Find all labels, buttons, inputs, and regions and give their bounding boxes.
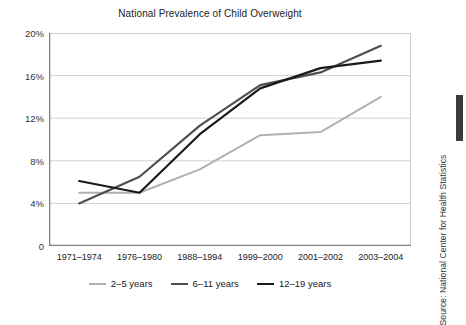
legend-label: 2–5 years bbox=[111, 278, 153, 289]
legend-line-swatch bbox=[257, 283, 274, 285]
y-axis-tick-label: 16% bbox=[10, 70, 44, 81]
legend-item[interactable]: 2–5 years bbox=[89, 278, 153, 289]
y-axis-tick-labels: 04%8%12%16%20% bbox=[8, 33, 44, 246]
legend-item[interactable]: 12–19 years bbox=[257, 278, 331, 289]
x-axis-tick-label: 2003–2004 bbox=[358, 252, 403, 262]
series-line bbox=[79, 61, 381, 193]
source-note: Source: National Center for Health Stati… bbox=[436, 35, 450, 245]
chart-plot-svg bbox=[49, 33, 411, 246]
x-axis-tick-label: 2001–2002 bbox=[298, 252, 343, 262]
x-axis-tick-label: 1999–2000 bbox=[238, 252, 283, 262]
x-axis-tick-label: 1971–1974 bbox=[57, 252, 102, 262]
chart-legend: 2–5 years6–11 years12–19 years bbox=[0, 278, 420, 289]
plot-area bbox=[49, 33, 411, 246]
legend-label: 12–19 years bbox=[279, 278, 331, 289]
y-axis-tick-label: 12% bbox=[10, 113, 44, 124]
y-axis-tick-label: 8% bbox=[10, 155, 44, 166]
legend-line-swatch bbox=[89, 283, 106, 285]
legend-item[interactable]: 6–11 years bbox=[171, 278, 239, 289]
page-edge-marker bbox=[456, 95, 463, 141]
chart-title: National Prevalence of Child Overweight bbox=[0, 8, 420, 19]
y-axis-tick-label: 4% bbox=[10, 198, 44, 209]
x-axis-tick-label: 1976–1980 bbox=[117, 252, 162, 262]
x-axis-tick-labels: 1971–19741976–19801988–19941999–20002001… bbox=[30, 252, 430, 268]
x-axis-tick-label: 1988–1994 bbox=[177, 252, 222, 262]
source-label: Source: National Center for Health Stati… bbox=[438, 155, 448, 325]
legend-label: 6–11 years bbox=[193, 278, 239, 289]
y-axis-tick-label: 0 bbox=[10, 241, 44, 252]
legend-line-swatch bbox=[171, 283, 188, 285]
series-line bbox=[79, 46, 381, 204]
y-axis-tick-label: 20% bbox=[10, 28, 44, 39]
